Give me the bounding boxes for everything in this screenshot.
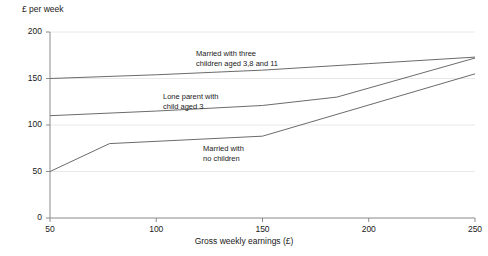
x-tick-label: 200 [349, 224, 389, 234]
chart-container: £ per week 050100150200 50100150200250 M… [0, 0, 488, 256]
x-tick-label: 250 [455, 224, 488, 234]
x-tick-label: 50 [30, 224, 70, 234]
chart-plot-area [0, 0, 488, 256]
x-tick-label: 100 [136, 224, 176, 234]
series-label-line2: no children [203, 154, 244, 164]
series-label-line1: Married with three [196, 49, 278, 59]
y-tick-label: 50 [16, 166, 42, 176]
y-tick-label: 150 [16, 73, 42, 83]
series-line-2 [50, 74, 475, 172]
y-tick-label: 100 [16, 119, 42, 129]
y-tick-label: 0 [16, 212, 42, 222]
series-label-lone-parent: Lone parent with child aged 3 [163, 92, 218, 112]
series-label-line1: Lone parent with [163, 92, 218, 102]
series-lines-group [50, 57, 475, 171]
series-label-line2: child aged 3 [163, 102, 218, 112]
series-label-married-three-children: Married with three children aged 3,8 and… [196, 49, 278, 69]
y-tick-label: 200 [16, 26, 42, 36]
x-tick-label: 150 [243, 224, 283, 234]
series-label-line2: children aged 3,8 and 11 [196, 59, 278, 69]
x-axis-title: Gross weekly earnings (£) [0, 236, 488, 246]
series-label-married-no-children: Married with no children [203, 144, 244, 164]
series-label-line1: Married with [203, 144, 244, 154]
